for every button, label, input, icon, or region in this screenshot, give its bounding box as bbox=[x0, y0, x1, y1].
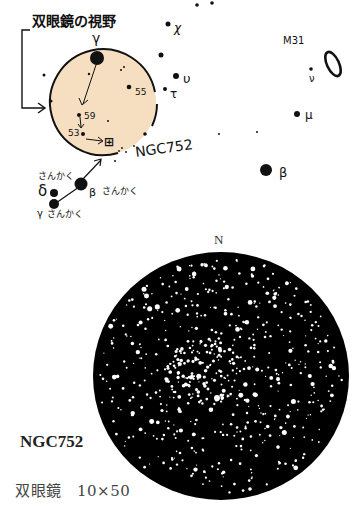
label-53: 53 bbox=[68, 128, 79, 138]
label-55: 55 bbox=[135, 87, 146, 97]
object-title: NGC752 bbox=[20, 432, 83, 452]
label-mu: μ bbox=[305, 108, 313, 122]
ngc752-label: NGC752 bbox=[134, 136, 193, 160]
label-beta-tri: β bbox=[89, 186, 96, 199]
eyepiece-field bbox=[93, 252, 349, 500]
finder-chart: γ 55 59 53 ⊞ NGC752 双眼鏡の視野 χ υ τ M31 ν μ… bbox=[0, 0, 353, 230]
m31-label: M31 bbox=[283, 35, 304, 46]
target-marker-icon: ⊞ bbox=[104, 135, 114, 149]
label-tau: τ bbox=[170, 87, 177, 101]
m31-galaxy-icon bbox=[322, 50, 344, 79]
label-gamma: γ bbox=[92, 30, 100, 46]
label-nu: ν bbox=[309, 73, 315, 84]
instrument-label: 双眼鏡 10×50 bbox=[15, 479, 130, 500]
label-triangulum-gamma: さんかく bbox=[47, 209, 83, 219]
label-chi: χ bbox=[173, 21, 182, 35]
label-beta: β bbox=[279, 165, 287, 180]
north-label: N bbox=[214, 232, 223, 248]
label-delta: δ bbox=[38, 182, 47, 200]
label-triangulum-beta: さんかく bbox=[102, 186, 138, 196]
binocular-fov-label: 双眼鏡の視野 bbox=[32, 13, 116, 29]
star-field bbox=[99, 259, 342, 493]
label-triangulum-delta: さんかく bbox=[38, 171, 74, 181]
label-bracket-arrow bbox=[22, 30, 44, 108]
label-gamma-tri: γ bbox=[37, 208, 43, 219]
label-upsilon: υ bbox=[183, 71, 191, 86]
label-59: 59 bbox=[84, 111, 96, 121]
